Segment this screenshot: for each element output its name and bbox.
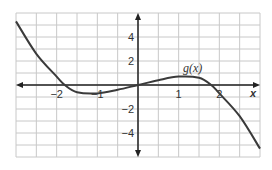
function-graph: −2−11242−2−4 g(x) x xyxy=(0,0,272,170)
y-tick-label: −2 xyxy=(121,103,134,115)
function-label: g(x) xyxy=(183,61,202,75)
x-tick-label: −2 xyxy=(50,88,63,100)
y-tick-label: 2 xyxy=(128,55,134,67)
x-axis-label: x xyxy=(249,87,257,99)
y-tick-label: −4 xyxy=(121,127,134,139)
y-axis-arrow-up-icon xyxy=(135,13,141,20)
y-axis-arrow-down-icon xyxy=(135,150,141,157)
x-tick-label: 1 xyxy=(176,88,182,100)
x-axis-arrow-left-icon xyxy=(16,82,23,88)
y-tick-label: 4 xyxy=(128,31,134,43)
